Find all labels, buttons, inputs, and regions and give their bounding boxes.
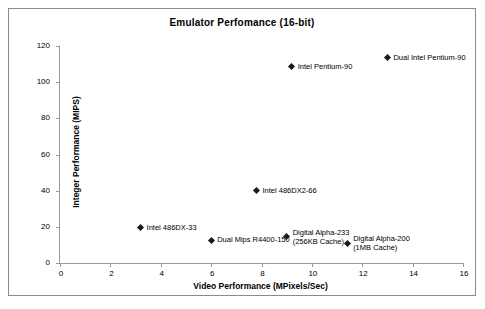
diamond-marker-icon — [253, 187, 260, 194]
y-tick: 80 — [56, 118, 60, 119]
chart-title: Emulator Perfomance (16-bit) — [9, 17, 475, 28]
data-point-label: Digital Alpha-200 (1MB Cache) — [353, 234, 410, 252]
diamond-marker-icon — [208, 237, 215, 244]
y-tick: 120 — [56, 46, 60, 47]
chart-frame: Emulator Perfomance (16-bit) Integer Per… — [8, 8, 476, 296]
y-tick-label: 120 — [37, 41, 50, 50]
x-tick-label: 8 — [260, 269, 264, 278]
x-tick: 4 — [161, 263, 162, 267]
x-tick: 8 — [262, 263, 263, 267]
x-tick-label: 10 — [308, 269, 317, 278]
x-tick: 14 — [413, 263, 414, 267]
y-tick-label: 40 — [41, 186, 50, 195]
data-point-label: Dual Mips R4400-150 — [217, 235, 290, 244]
data-point-label: Intel 486DX-33 — [147, 223, 197, 232]
data-point-label: Dual Intel Pentium-90 — [393, 53, 465, 62]
x-tick-label: 16 — [460, 269, 469, 278]
data-point-label: Digital Alpha-233 (256KB Cache) — [293, 228, 350, 246]
data-point-label: Intel 486DX2-66 — [262, 186, 316, 195]
x-axis-title: Video Performance (MPixels/Sec) — [59, 281, 462, 291]
y-tick: 60 — [56, 155, 60, 156]
x-tick: 0 — [60, 263, 61, 267]
data-point-label: Intel Pentium-90 — [298, 62, 353, 71]
y-tick-label: 20 — [41, 222, 50, 231]
x-tick: 2 — [110, 263, 111, 267]
x-tick-label: 4 — [160, 269, 164, 278]
y-tick: 40 — [56, 191, 60, 192]
diamond-marker-icon — [137, 224, 144, 231]
y-tick: 100 — [56, 82, 60, 83]
x-tick: 12 — [362, 263, 363, 267]
diamond-marker-icon — [384, 54, 391, 61]
plot-area: 020406080100120 0246810121416 Intel 486D… — [59, 46, 463, 264]
y-tick-label: 60 — [41, 150, 50, 159]
y-tick-label: 0 — [46, 258, 50, 267]
y-tick-label: 80 — [41, 113, 50, 122]
x-tick-label: 6 — [210, 269, 214, 278]
x-tick-label: 0 — [59, 269, 63, 278]
y-tick: 20 — [56, 227, 60, 228]
x-tick: 16 — [463, 263, 464, 267]
x-tick: 10 — [312, 263, 313, 267]
x-tick: 6 — [211, 263, 212, 267]
y-tick-label: 100 — [37, 77, 50, 86]
diamond-marker-icon — [288, 63, 295, 70]
x-tick-label: 12 — [359, 269, 368, 278]
x-tick-label: 2 — [109, 269, 113, 278]
x-tick-label: 14 — [409, 269, 418, 278]
